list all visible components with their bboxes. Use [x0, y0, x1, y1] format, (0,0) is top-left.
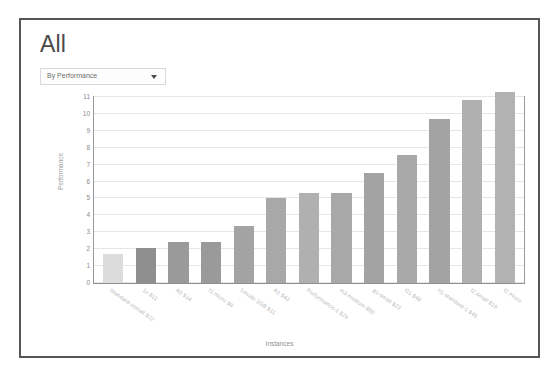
- bar-slot: [456, 97, 489, 283]
- bar-slot: [195, 97, 228, 283]
- y-axis-tick-label: 6: [86, 177, 90, 184]
- bar[interactable]: [364, 173, 384, 283]
- x-axis-tick-label: t2.micro: [502, 287, 522, 304]
- y-axis-tick-label: 4: [86, 211, 90, 218]
- y-axis-tick-label: 0: [86, 279, 90, 286]
- plot-area: 01234567891011: [93, 96, 525, 283]
- bar-slot: [130, 97, 163, 283]
- bar-slot: [227, 97, 260, 283]
- bar[interactable]: [136, 248, 156, 284]
- bar-chart: 01234567891011 Standard-xsmall $221x $11…: [21, 20, 538, 356]
- bar[interactable]: [234, 226, 254, 283]
- x-axis-tick-label: G1 $48: [404, 287, 423, 303]
- x-axis-title: Instances: [21, 340, 538, 347]
- bar[interactable]: [495, 92, 515, 283]
- bar[interactable]: [299, 193, 319, 283]
- y-axis-tick-label: 10: [83, 109, 90, 116]
- window-frame: All By Performance 01234567891011 Standa…: [19, 18, 540, 358]
- bar[interactable]: [201, 242, 221, 283]
- bar[interactable]: [103, 254, 123, 283]
- bar[interactable]: [397, 155, 417, 284]
- bar[interactable]: [429, 119, 449, 283]
- bar[interactable]: [331, 193, 351, 283]
- bar-slot: [293, 97, 326, 283]
- bar[interactable]: [168, 242, 188, 283]
- y-axis-tick-label: 11: [83, 93, 90, 100]
- bar-slot: [260, 97, 293, 283]
- bar[interactable]: [462, 100, 482, 283]
- bar-slot: [358, 97, 391, 283]
- content-card: All By Performance 01234567891011 Standa…: [21, 20, 538, 356]
- y-axis-tick-label: 9: [86, 126, 90, 133]
- y-axis-tick-label: 2: [86, 245, 90, 252]
- x-axis-tick-label: 1x $11: [142, 287, 159, 302]
- bar-series: [94, 97, 524, 283]
- bar-slot: [325, 97, 358, 283]
- bar-slot: [423, 97, 456, 283]
- bar-slot: [162, 97, 195, 283]
- y-axis-tick-label: 5: [86, 194, 90, 201]
- y-axis-title: Performance: [57, 153, 64, 190]
- x-axis-tick-label: A0 $14: [174, 287, 192, 302]
- bar-slot: [390, 97, 423, 283]
- y-axis-tick-label: 8: [86, 143, 90, 150]
- bar-slot: [488, 97, 521, 283]
- x-axis-tick-label: A1 $43: [273, 287, 291, 302]
- bar[interactable]: [266, 198, 286, 283]
- x-axis-tick-label: t2.small $19: [469, 287, 498, 310]
- bar-slot: [97, 97, 130, 283]
- x-axis-tick-label: g1-small $23: [371, 287, 402, 311]
- y-axis-tick-label: 7: [86, 160, 90, 167]
- x-axis-line: [93, 283, 525, 284]
- screen: All By Performance 01234567891011 Standa…: [0, 0, 558, 376]
- y-axis-tick-label: 1: [86, 262, 90, 269]
- x-axis-tick-label: t1.micro $9: [207, 287, 234, 308]
- y-axis-tick-label: 3: [86, 228, 90, 235]
